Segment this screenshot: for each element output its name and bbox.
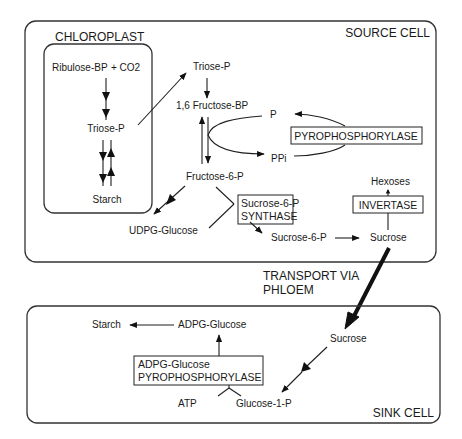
chloroplast-triose-p-label: Triose-P (87, 123, 125, 134)
invertase-label: INVERTASE (359, 199, 418, 211)
cytosol-triose-p-label: Triose-P (193, 61, 231, 72)
loop-upper (208, 116, 262, 135)
pyrophosphorylase-to-p-arrow (295, 114, 345, 126)
ribulose-bp-label: Ribulose-BP (52, 62, 108, 73)
loop-lower-to-ppi (208, 135, 264, 154)
sink-starch-label: Starch (92, 319, 121, 330)
sucrose-6p-label: Sucrose-6-P (271, 232, 327, 243)
source-cell-title: SOURCE CELL (345, 26, 430, 40)
p-label: P (270, 109, 277, 120)
glucose-1p-label: Glucose-1-P (236, 398, 292, 409)
sps-line2: SYNTHASE (241, 210, 298, 222)
udpg-glucose-label: UDPG-Glucose (129, 225, 198, 236)
g1p-input-line (229, 388, 241, 396)
atp-input-line (218, 388, 229, 396)
transport-line1: TRANSPORT VIA (263, 269, 359, 283)
pyrophosphorylase-from-ppi (294, 145, 345, 156)
adpg-glucose-label: ADPG-Glucose (178, 319, 247, 330)
sink-cell-title: SINK CELL (373, 406, 435, 420)
sink-sucrose-label: Sucrose (330, 333, 367, 344)
f6p-to-sps-line (216, 187, 234, 204)
ppi-label: PPi (271, 153, 287, 164)
atp-label: ATP (178, 398, 197, 409)
sps-line1: Sucrose-6-P (241, 197, 299, 209)
co2-label: + CO2 (111, 62, 141, 73)
triose-export-arrow (138, 73, 186, 125)
sucrose-to-g1p-segment1 (307, 347, 327, 366)
source-sucrose-label: Sucrose (370, 232, 407, 243)
transport-line2: PHLOEM (263, 283, 314, 297)
fructose-bp-label: 1,6 Fructose-BP (176, 100, 249, 111)
udpg-to-sps-line (209, 204, 234, 228)
adpg-enzyme-line2: PYROPHOSPHORYLASE (138, 371, 262, 383)
phloem-transport-arrow (353, 248, 389, 318)
chloroplast-title: CHLOROPLAST (55, 30, 145, 44)
sucrose-to-g1p-arrow (282, 372, 302, 392)
fructose-6p-label: Fructose-6-P (186, 171, 244, 182)
hexoses-label: Hexoses (371, 176, 410, 187)
chloroplast-starch-label: Starch (93, 194, 122, 205)
pyrophosphorylase-label: PYROPHOSPHORYLASE (294, 130, 418, 142)
sucrose-starch-pathway-diagram: SOURCE CELL CHLOROPLAST Ribulose-BP + CO… (0, 0, 462, 439)
adpg-enzyme-line1: ADPG-Glucose (138, 358, 210, 370)
